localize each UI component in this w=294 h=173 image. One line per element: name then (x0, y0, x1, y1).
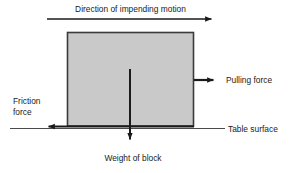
impending-motion-label: Direction of impending motion (75, 4, 186, 14)
force-diagram: Direction of impending motion Pulling fo… (0, 0, 294, 173)
force-diagram-canvas: Direction of impending motion Pulling fo… (0, 0, 294, 173)
friction-force-label: Friction force (13, 96, 40, 117)
pulling-force-label: Pulling force (226, 75, 272, 85)
weight-of-block-label: Weight of block (104, 153, 162, 163)
table-surface-label: Table surface (228, 124, 278, 134)
